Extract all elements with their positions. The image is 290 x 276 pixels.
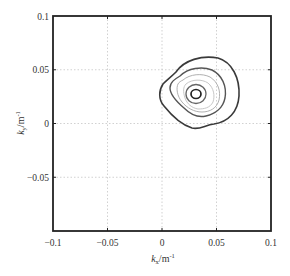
x-tick-label: 0.05 (208, 238, 225, 248)
y-tick-label: −0.05 (27, 173, 49, 183)
x-tick-label: 0.1 (265, 238, 277, 248)
y-axis-label: ky/m-1 (14, 111, 27, 135)
y-tick-label: 0.05 (32, 65, 49, 75)
x-tick-label: −0.1 (44, 238, 61, 248)
x-tick-label: −0.05 (97, 238, 119, 248)
x-axis-label: kx/m-1 (151, 252, 175, 265)
x-tick-label: 0 (160, 238, 165, 248)
contour-chart: −0.1 −0.05 0 0.05 0.1 −0.05 0 0.05 0.1 k… (0, 0, 290, 276)
y-tick-label: 0.1 (37, 12, 49, 22)
x-tick-labels: −0.1 −0.05 0 0.05 0.1 (44, 238, 277, 248)
y-tick-label: 0 (44, 119, 49, 129)
y-tick-labels: −0.05 0 0.05 0.1 (27, 12, 49, 183)
